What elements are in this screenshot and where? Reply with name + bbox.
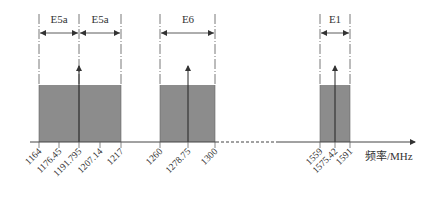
tick-label: 1278.75 xyxy=(164,146,193,175)
band-label-e6: E6 xyxy=(182,13,195,25)
band-fill-e5 xyxy=(39,85,121,142)
band-label-e1: E1 xyxy=(329,13,341,25)
frequency-band-diagram: E5aE5aE6E1 11641176.451191.7951207.14121… xyxy=(0,0,437,200)
tick-label: 1260 xyxy=(144,146,165,167)
band-label-e5a: E5a xyxy=(50,13,67,25)
tick-label: 1217 xyxy=(105,146,126,167)
band-dimension-lines: E5aE5aE6E1 xyxy=(40,13,349,33)
tick-label: 1300 xyxy=(199,146,220,167)
axis-label: 频率/MHz xyxy=(365,149,413,162)
band-fills xyxy=(39,85,350,142)
tick-marks: 11641176.451191.7951207.14121712601278.7… xyxy=(23,142,354,178)
band-label-e5a: E5a xyxy=(91,13,108,25)
tick-label: 1591 xyxy=(334,146,355,167)
